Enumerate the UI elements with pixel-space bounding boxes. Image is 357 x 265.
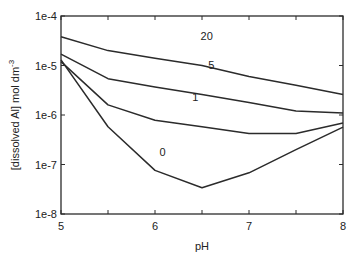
- series-labels: 20510: [159, 30, 214, 158]
- series-line-5: [61, 54, 343, 113]
- x-axis-title: pH: [195, 240, 209, 252]
- series-layer: [61, 37, 343, 188]
- x-tick-label: 6: [152, 220, 158, 232]
- series-line-1: [61, 62, 343, 134]
- series-label-5: 5: [208, 59, 214, 71]
- series-line-20: [61, 37, 343, 95]
- series-line-0: [61, 60, 343, 188]
- axis-ticks: [61, 16, 343, 214]
- x-tick-label: 7: [246, 220, 252, 232]
- y-tick-label: 1e-5: [35, 60, 57, 72]
- y-tick-label: 1e-7: [35, 159, 57, 171]
- plot-frame: [61, 16, 343, 214]
- y-axis-title-superscript: -3: [7, 59, 16, 67]
- y-axis-title: [dissolved Al] mol dm-3: [7, 59, 21, 170]
- series-label-20: 20: [201, 30, 213, 42]
- chart: 56781e-81e-71e-61e-51e-4 20510 pH [disso…: [0, 0, 357, 265]
- y-tick-label: 1e-8: [35, 208, 57, 220]
- y-axis-title-text: [dissolved Al] mol dm: [9, 67, 21, 170]
- y-tick-label: 1e-4: [35, 10, 57, 22]
- series-label-1: 1: [192, 91, 198, 103]
- series-label-0: 0: [159, 146, 165, 158]
- y-tick-label: 1e-6: [35, 109, 57, 121]
- x-tick-label: 8: [340, 220, 346, 232]
- x-tick-label: 5: [58, 220, 64, 232]
